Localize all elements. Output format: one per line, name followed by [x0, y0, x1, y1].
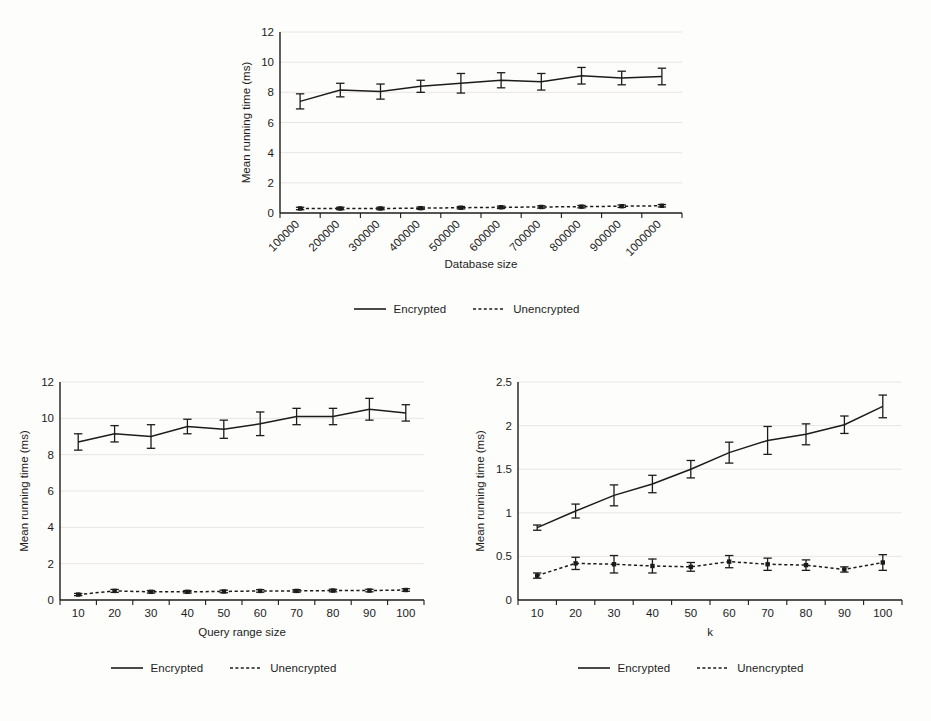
x-tick-label: 80 — [327, 607, 340, 619]
series-line-encrypted — [537, 406, 883, 527]
series-line-unencrypted — [300, 206, 662, 209]
legend-label-encrypted: Encrypted — [394, 303, 447, 315]
x-tick-label: 70 — [761, 607, 774, 619]
figure-page: 0246810121000002000003000004000005000006… — [0, 0, 931, 721]
y-axis-title: Mean running time (ms) — [18, 430, 30, 552]
dotted-line-icon — [229, 663, 263, 673]
series-line-unencrypted — [78, 590, 406, 595]
legend-label-encrypted: Encrypted — [618, 662, 671, 674]
y-tick-label: 0.5 — [496, 550, 512, 562]
y-tick-label: 8 — [268, 86, 274, 98]
x-tick-label: 100 — [873, 607, 892, 619]
y-axis-title: Mean running time (ms) — [474, 430, 486, 552]
x-tick-label: 500000 — [427, 218, 463, 254]
y-tick-label: 1.5 — [496, 463, 512, 475]
x-tick-label: 40 — [181, 607, 194, 619]
x-tick-label: 100000 — [266, 218, 302, 254]
y-tick-label: 2.5 — [496, 376, 512, 388]
x-tick-label: 600000 — [467, 218, 503, 254]
legend-k: Encrypted Unencrypted — [460, 662, 920, 674]
solid-line-icon — [353, 304, 387, 314]
y-tick-label: 12 — [261, 26, 274, 38]
plot-k: 00.511.522.5102030405060708090100Mean ru… — [460, 368, 920, 658]
chart-database-size: 0246810121000002000003000004000005000006… — [236, 18, 696, 308]
x-tick-label: 10 — [72, 607, 85, 619]
x-tick-label: 50 — [217, 607, 230, 619]
y-tick-label: 2 — [268, 177, 274, 189]
x-tick-label: 40 — [646, 607, 659, 619]
series-line-encrypted — [300, 76, 662, 102]
y-tick-label: 0 — [506, 594, 512, 606]
y-tick-label: 0 — [268, 207, 274, 219]
x-tick-label: 300000 — [346, 218, 382, 254]
legend-query-range-size: Encrypted Unencrypted — [8, 662, 438, 674]
y-tick-label: 6 — [268, 117, 274, 129]
x-tick-label: 20 — [569, 607, 582, 619]
solid-line-icon — [110, 663, 144, 673]
x-tick-label: 60 — [723, 607, 736, 619]
series-line-encrypted — [78, 409, 406, 442]
plot-query-range-size: 024681012102030405060708090100Mean runni… — [8, 368, 438, 658]
x-tick-label: 70 — [290, 607, 303, 619]
x-axis-title: Database size — [445, 258, 518, 270]
legend-label-unencrypted: Unencrypted — [737, 662, 803, 674]
x-tick-label: 1000000 — [623, 218, 663, 258]
plot-database-size: 0246810121000002000003000004000005000006… — [236, 18, 696, 308]
legend-database-size: Encrypted Unencrypted — [236, 303, 696, 315]
series-line-unencrypted — [537, 562, 883, 576]
x-tick-label: 60 — [254, 607, 267, 619]
x-tick-label: 50 — [684, 607, 697, 619]
x-tick-label: 30 — [608, 607, 621, 619]
x-tick-label: 10 — [531, 607, 544, 619]
legend-label-unencrypted: Unencrypted — [513, 303, 579, 315]
legend-label-unencrypted: Unencrypted — [270, 662, 336, 674]
x-tick-label: 100 — [396, 607, 415, 619]
x-tick-label: 30 — [145, 607, 158, 619]
x-tick-label: 90 — [838, 607, 851, 619]
x-tick-label: 20 — [108, 607, 121, 619]
x-axis-title: Query range size — [198, 626, 286, 638]
chart-k: 00.511.522.5102030405060708090100Mean ru… — [460, 368, 920, 658]
legend-entry-unencrypted: Unencrypted — [696, 662, 803, 674]
y-tick-label: 4 — [268, 147, 275, 159]
x-tick-label: 90 — [363, 607, 376, 619]
x-tick-label: 200000 — [306, 218, 342, 254]
chart-query-range-size: 024681012102030405060708090100Mean runni… — [8, 368, 438, 658]
y-tick-label: 2 — [48, 558, 54, 570]
y-tick-label: 10 — [261, 56, 274, 68]
y-axis-title: Mean running time (ms) — [240, 62, 252, 184]
y-tick-label: 4 — [48, 521, 55, 533]
x-tick-label: 900000 — [587, 218, 623, 254]
legend-label-encrypted: Encrypted — [151, 662, 204, 674]
y-tick-label: 6 — [48, 485, 54, 497]
x-tick-label: 80 — [800, 607, 813, 619]
y-tick-label: 8 — [48, 449, 54, 461]
x-tick-label: 800000 — [547, 218, 583, 254]
y-tick-label: 2 — [506, 420, 512, 432]
dotted-line-icon — [696, 663, 730, 673]
y-tick-label: 1 — [506, 507, 512, 519]
y-tick-label: 10 — [41, 412, 54, 424]
solid-line-icon — [577, 663, 611, 673]
legend-entry-unencrypted: Unencrypted — [472, 303, 579, 315]
y-tick-label: 12 — [41, 376, 54, 388]
x-tick-label: 400000 — [386, 218, 422, 254]
legend-entry-unencrypted: Unencrypted — [229, 662, 336, 674]
legend-entry-encrypted: Encrypted — [110, 662, 204, 674]
x-axis-title: k — [707, 626, 713, 638]
legend-entry-encrypted: Encrypted — [577, 662, 671, 674]
dotted-line-icon — [472, 304, 506, 314]
x-tick-label: 700000 — [507, 218, 543, 254]
y-tick-label: 0 — [48, 594, 54, 606]
legend-entry-encrypted: Encrypted — [353, 303, 447, 315]
